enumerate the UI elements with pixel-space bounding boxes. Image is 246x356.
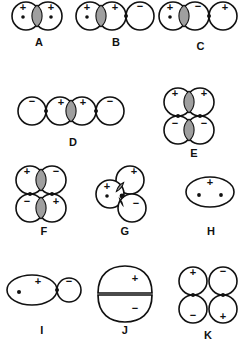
overlap-lens <box>184 91 194 113</box>
diagram-panel-b: + + − B <box>72 0 160 46</box>
orbital-lobe-top <box>98 266 152 293</box>
sign-label: − <box>201 117 207 129</box>
sign-label: + <box>132 272 138 284</box>
sign-label: − <box>137 0 143 12</box>
nucleus-dot <box>17 290 21 294</box>
sign-label: + <box>104 180 110 192</box>
diagram-i-art: + − <box>2 268 82 316</box>
panel-label-k: K <box>172 329 244 341</box>
nucleus-dot <box>168 15 172 19</box>
sign-label: + <box>207 176 213 188</box>
nucleus-dot <box>21 15 25 19</box>
diagram-panel-i: + − I <box>2 268 82 340</box>
sign-label: + <box>131 165 137 177</box>
sign-label: − <box>132 302 138 314</box>
overlap-lens <box>32 5 42 27</box>
diagram-f-art: + − − + <box>4 163 84 223</box>
sign-label: − <box>133 197 139 209</box>
diagram-panel-h: + H <box>176 172 246 236</box>
overlap-lens <box>66 100 76 122</box>
diagram-c-art: + − + <box>155 0 246 34</box>
panel-label-d: D <box>16 136 130 148</box>
tangent-contact <box>191 293 195 297</box>
nucleus-dot <box>85 15 89 19</box>
overlap-lens <box>96 5 106 27</box>
panel-label-g: G <box>88 225 162 237</box>
diagram-panel-k: + − − + K <box>172 265 244 343</box>
nucleus-dot <box>105 194 109 198</box>
overlap-lens <box>36 197 46 219</box>
orbital-lobe-bottom <box>98 295 152 322</box>
tangent-contact <box>124 14 128 18</box>
diagram-panel-d: − + + − D <box>16 94 130 148</box>
panel-label-b: B <box>72 36 160 48</box>
overlap-lens <box>179 5 189 27</box>
sign-label: − <box>172 117 178 129</box>
orbital-diagram-sheet: + + A + + − B + − + <box>0 0 246 356</box>
diagram-panel-g: + + − G <box>88 163 162 235</box>
sign-label: + <box>58 96 64 108</box>
sign-label: + <box>84 1 90 13</box>
diagram-a-art: + + <box>6 0 72 34</box>
tangent-contact <box>94 109 98 113</box>
sign-label: + <box>167 1 173 13</box>
sign-label: + <box>201 87 207 99</box>
orbital-ellipse <box>7 275 57 305</box>
sign-label: − <box>53 165 59 177</box>
panel-label-j: J <box>88 324 162 336</box>
diagram-g-art: + + − <box>88 163 162 223</box>
diagram-panel-j: + − J <box>88 262 162 340</box>
tangent-contact <box>55 288 59 292</box>
diagram-h-art: + <box>176 172 246 216</box>
sign-label: − <box>29 95 35 107</box>
sign-label: − <box>107 95 113 107</box>
diagram-b-art: + + − <box>72 0 160 34</box>
tangent-contact <box>207 14 211 18</box>
sign-label: + <box>53 195 59 207</box>
diagram-j-art: + − <box>88 262 162 330</box>
nucleus-dot <box>197 193 201 197</box>
sign-label: − <box>195 0 201 12</box>
tangent-contact <box>44 109 48 113</box>
sign-label: + <box>172 87 178 99</box>
nucleus-dot <box>219 193 223 197</box>
sign-label: + <box>222 1 228 13</box>
overlap-lens <box>184 119 194 141</box>
sign-label: + <box>24 165 30 177</box>
sign-label: − <box>220 265 226 277</box>
tangent-contact <box>221 293 225 297</box>
nucleus-dot <box>49 15 53 19</box>
panel-label-f: F <box>4 225 84 237</box>
overlap-lens <box>36 169 46 191</box>
sign-label: − <box>66 275 72 287</box>
sign-label: + <box>190 266 196 278</box>
sign-label: + <box>20 1 26 13</box>
panel-label-c: C <box>155 40 246 52</box>
tangent-contact <box>120 194 125 199</box>
sign-label: + <box>220 310 226 322</box>
sign-label: + <box>80 96 86 108</box>
sign-label: − <box>190 309 196 321</box>
diagram-panel-e: + + − − E <box>152 85 236 157</box>
sign-label: + <box>35 275 41 287</box>
diagram-e-art: + + − − <box>152 85 236 145</box>
diagram-panel-f: + − − + F <box>4 163 84 235</box>
sign-label: − <box>24 195 30 207</box>
sign-label: + <box>48 1 54 13</box>
diagram-panel-c: + − + C <box>155 0 246 50</box>
panel-label-a: A <box>6 36 72 48</box>
panel-label-e: E <box>152 147 236 159</box>
diagram-panel-a: + + A <box>6 0 72 46</box>
panel-label-i: I <box>2 324 82 336</box>
panel-label-h: H <box>176 225 246 237</box>
sign-label: + <box>112 1 118 13</box>
diagram-d-art: − + + − <box>16 94 130 128</box>
diagram-k-art: + − − + <box>172 265 244 327</box>
